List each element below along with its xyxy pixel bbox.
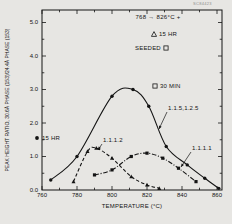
y-axis-label: PEAK HEIGHT RATIO, 30.6Å PHASE (153)/24.… xyxy=(5,7,13,193)
x-tick-label: 820 xyxy=(139,192,155,198)
y-tick-label: 4.0 xyxy=(24,53,38,59)
x-tick-label: 840 xyxy=(174,192,190,198)
legend-label: 30 MIN xyxy=(160,83,181,89)
y-tick-label: 1.0 xyxy=(24,153,38,159)
open-triangle-icon xyxy=(151,31,157,37)
legend-seeded-header: SEEDED xyxy=(135,45,169,51)
y-tick-label: 0.0 xyxy=(24,187,38,193)
y-tick-label: 2.0 xyxy=(24,120,38,126)
chart-title: 768 → 826°C + xyxy=(108,14,208,20)
legend-label: 15 HR xyxy=(159,31,177,37)
open-square-icon xyxy=(152,83,158,89)
open-square-icon xyxy=(163,45,169,51)
x-tick-label: 800 xyxy=(104,192,120,198)
x-tick-label: 860 xyxy=(209,192,225,198)
x-tick-label: 780 xyxy=(69,192,85,198)
legend-seeded-30min: 30 MIN xyxy=(152,83,181,89)
series-label-1-1-1-1: 1.1.1.1 xyxy=(192,145,212,151)
legend-label: SEEDED xyxy=(135,45,161,51)
legend-15hr-filled: 15 HR xyxy=(34,135,60,141)
legend-seeded-15hr: 15 HR xyxy=(151,31,177,37)
legend-label: 15 HR xyxy=(42,135,60,141)
figure-id: SC84423 xyxy=(193,2,212,6)
series-label-1-1-1-2: 1.1.1.2 xyxy=(103,137,123,143)
series-label-1-1-5: 1.1.5,1.2.5 xyxy=(168,105,199,111)
y-tick-label: 5.0 xyxy=(24,19,38,25)
figure-root: SC84423 768 → 826°C + 15 HR SEEDED 30 MI… xyxy=(0,0,232,224)
x-axis-label: TEMPERATURE (°C) xyxy=(82,203,182,209)
y-tick-label: 3.0 xyxy=(24,86,38,92)
filled-circle-icon xyxy=(34,135,40,141)
